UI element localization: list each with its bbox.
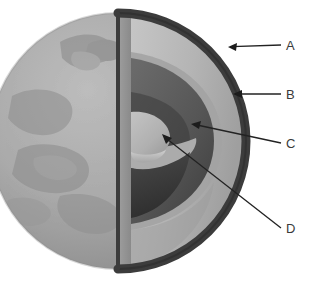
callout-a: A: [228, 38, 295, 53]
callout-d-label: D: [286, 221, 295, 236]
earth-cutaway-diagram: A B C D: [0, 0, 310, 283]
callout-a-line: [232, 45, 281, 47]
callout-b-label: B: [286, 87, 295, 102]
callout-a-label: A: [286, 38, 295, 53]
callout-a-arrowhead: [228, 43, 237, 51]
callout-c-label: C: [286, 136, 295, 151]
cutaway-group: [118, 13, 243, 269]
